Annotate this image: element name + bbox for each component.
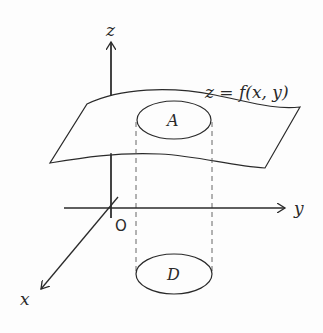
origin-label: O bbox=[115, 217, 127, 235]
surface-equation-label: z = f(x, y) bbox=[204, 82, 289, 102]
x-axis-label: x bbox=[20, 289, 30, 309]
surface-integral-diagram: z y x O z = f(x, y) A D bbox=[0, 0, 323, 333]
diagram-canvas: z y x O z = f(x, y) A D bbox=[0, 0, 323, 333]
z-axis-label: z bbox=[105, 20, 116, 40]
x-axis bbox=[41, 197, 118, 289]
region-d-label: D bbox=[166, 265, 180, 284]
region-a-label: A bbox=[165, 111, 179, 130]
y-axis-label: y bbox=[293, 198, 304, 218]
